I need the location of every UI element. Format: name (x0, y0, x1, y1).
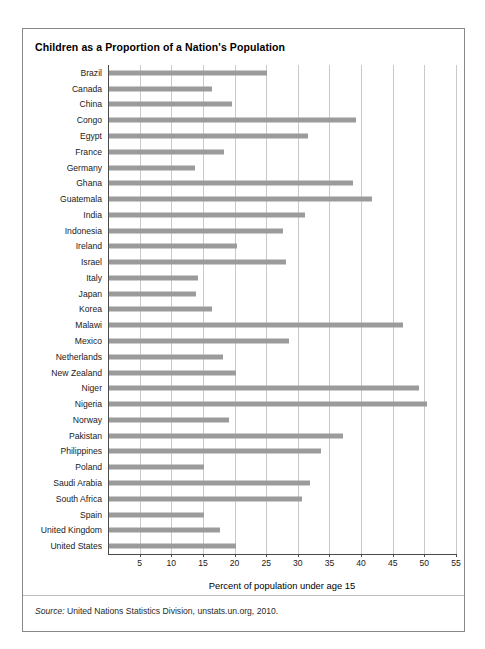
category-label: Ghana (76, 178, 102, 188)
bar-row: Ghana (108, 175, 456, 191)
category-label: Japan (79, 289, 102, 299)
bar-row: Japan (108, 286, 456, 302)
category-label: France (75, 147, 102, 157)
bar (109, 417, 229, 422)
bar (109, 86, 212, 91)
gridline (456, 65, 457, 554)
bar-row: Germany (108, 160, 456, 176)
bar-row: Pakistan (108, 428, 456, 444)
category-label: Guatemala (60, 194, 102, 204)
category-label: United Kingdom (41, 525, 102, 535)
bar (109, 370, 236, 375)
category-label: Philippines (60, 446, 102, 456)
category-label: Netherlands (56, 352, 102, 362)
bar-row: Canada (108, 81, 456, 97)
category-label: Brazil (81, 68, 103, 78)
bar (109, 244, 237, 249)
tick-mark (171, 554, 172, 557)
bar-row: Nigeria (108, 396, 456, 412)
category-label: Mexico (75, 336, 102, 346)
tick-label: 35 (325, 558, 335, 568)
bar-row: Mexico (108, 333, 456, 349)
bar-row: Israel (108, 254, 456, 270)
bar (109, 339, 289, 344)
category-label: Poland (75, 462, 102, 472)
category-label: Canada (72, 84, 102, 94)
tick-label: 15 (198, 558, 208, 568)
tick-mark (393, 554, 394, 557)
bar-row: Niger (108, 380, 456, 396)
bar-row: Brazil (108, 65, 456, 81)
bar-row: Congo (108, 112, 456, 128)
tick-label: 30 (293, 558, 303, 568)
bar-row: Philippines (108, 444, 456, 460)
bar-row: Spain (108, 507, 456, 523)
bar (109, 197, 372, 202)
bar-row: Netherlands (108, 349, 456, 365)
tick-label: 5 (137, 558, 142, 568)
bar-row: Guatemala (108, 191, 456, 207)
bar-row: India (108, 207, 456, 223)
bar (109, 323, 403, 328)
bar-row: South Africa (108, 491, 456, 507)
bar-row: France (108, 144, 456, 160)
bar-row: Ireland (108, 239, 456, 255)
bar-row: China (108, 97, 456, 113)
tick-label: 20 (230, 558, 240, 568)
category-label: Saudi Arabia (53, 478, 102, 488)
category-label: China (80, 99, 102, 109)
category-label: Israel (81, 257, 102, 267)
tick-mark (140, 554, 141, 557)
bar (109, 354, 223, 359)
category-label: Italy (86, 273, 102, 283)
bar (109, 291, 196, 296)
category-label: Niger (81, 383, 102, 393)
page-title: Children as a Proportion of a Nation's P… (35, 41, 285, 53)
source-label: Source: (35, 606, 65, 616)
bar (109, 133, 308, 138)
bar (109, 228, 283, 233)
category-label: South Africa (56, 494, 102, 504)
tick-mark (266, 554, 267, 557)
category-label: Spain (80, 510, 102, 520)
bar-row: Egypt (108, 128, 456, 144)
bar-row: Korea (108, 302, 456, 318)
bar-row: Malawi (108, 317, 456, 333)
bar-row: United States (108, 538, 456, 554)
tick-mark (235, 554, 236, 557)
category-label: Indonesia (65, 226, 102, 236)
bar-row: Indonesia (108, 223, 456, 239)
bar (109, 118, 356, 123)
tick-label: 55 (451, 558, 461, 568)
category-label: United States (50, 541, 102, 551)
figure-frame: Children as a Proportion of a Nation's P… (22, 28, 465, 632)
bar (109, 307, 212, 312)
category-label: Congo (77, 115, 102, 125)
bar (109, 528, 220, 533)
tick-label: 45 (388, 558, 398, 568)
tick-mark (456, 554, 457, 557)
x-axis-label: Percent of population under age 15 (108, 580, 456, 591)
category-label: Egypt (80, 131, 102, 141)
bar (109, 386, 419, 391)
bar (109, 165, 195, 170)
bar (109, 181, 353, 186)
bar (109, 512, 204, 517)
bar (109, 544, 236, 549)
bar (109, 149, 224, 154)
tick-label: 10 (166, 558, 176, 568)
tick-label: 25 (261, 558, 271, 568)
bar-series: BrazilCanadaChinaCongoEgyptFranceGermany… (108, 65, 456, 554)
category-label: Malawi (75, 320, 102, 330)
tick-mark (361, 554, 362, 557)
category-label: Germany (67, 163, 102, 173)
bar-row: Poland (108, 459, 456, 475)
source-note: Source: United Nations Statistics Divisi… (35, 606, 278, 616)
tick-mark (203, 554, 204, 557)
tick-label: 50 (420, 558, 430, 568)
bar (109, 260, 286, 265)
source-detail: United Nations Statistics Division, unst… (65, 606, 279, 616)
bar (109, 402, 427, 407)
tick-mark (329, 554, 330, 557)
tick-label: 40 (356, 558, 366, 568)
